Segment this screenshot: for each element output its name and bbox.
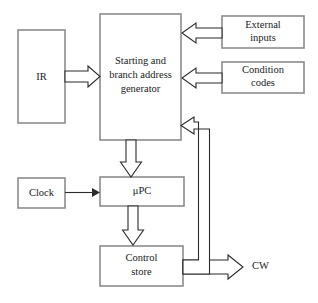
connector-upc-to-control-store [123, 206, 144, 245]
block-condition-codes-label-line1: Condition [242, 64, 285, 75]
condition-codes-to-generator-arrow-icon [182, 68, 222, 88]
block-ir-label: IR [36, 71, 47, 82]
block-clock-label: Clock [29, 187, 55, 198]
connector-control-store-feedback-to-generator [181, 117, 210, 274]
block-control-store-label-line2: store [131, 266, 152, 277]
clock-to-upc-arrowhead-icon [92, 188, 100, 197]
diagram-canvas: IR Starting and branch address generator… [0, 0, 318, 303]
block-external-inputs[interactable]: External inputs [222, 16, 304, 48]
block-generator[interactable]: Starting and branch address generator [100, 14, 181, 140]
generator-to-upc-arrow-icon [121, 140, 142, 177]
block-upc-label: μPC [133, 185, 151, 196]
block-external-inputs-label-line2: inputs [250, 32, 276, 43]
feedback-to-generator-arrow-icon [181, 117, 210, 274]
block-condition-codes-label-line2: codes [251, 77, 275, 88]
ir-to-generator-arrow-icon [65, 66, 100, 87]
label-cw: CW [252, 260, 269, 271]
block-external-inputs-label-line1: External [245, 19, 281, 30]
block-ir[interactable]: IR [18, 30, 65, 123]
connector-condition-codes-to-generator [182, 68, 222, 88]
block-generator-label-line1: Starting and [115, 55, 167, 66]
upc-to-control-store-arrow-icon [123, 206, 144, 245]
external-inputs-to-generator-arrow-icon [182, 23, 222, 43]
block-diagram-figure: IR Starting and branch address generator… [0, 0, 318, 303]
connector-generator-to-upc [121, 140, 142, 177]
connector-clock-to-upc [65, 188, 100, 197]
block-clock[interactable]: Clock [18, 178, 65, 208]
block-generator-label-line2: branch address [109, 69, 172, 80]
block-condition-codes[interactable]: Condition codes [222, 62, 304, 93]
block-control-store[interactable]: Control store [100, 246, 183, 286]
block-upc[interactable]: μPC [100, 177, 184, 206]
connector-ir-to-generator [65, 66, 100, 87]
block-control-store-label-line1: Control [125, 252, 157, 263]
block-generator-label-line3: generator [121, 83, 161, 94]
connector-external-inputs-to-generator [182, 23, 222, 43]
